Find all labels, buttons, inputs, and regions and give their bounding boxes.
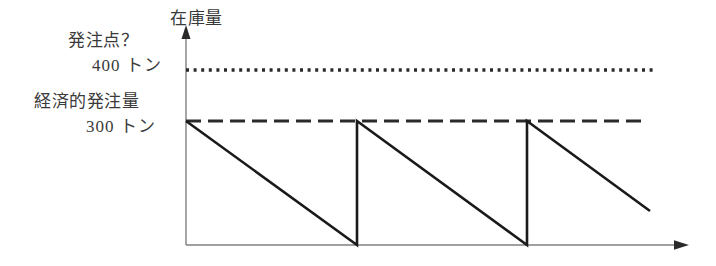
inventory-sawtooth-figure: 発注点？ 400 トン 経済的発注量 300 トン 在庫量 (0, 0, 716, 266)
y-axis-arrow-icon (182, 25, 191, 39)
x-axis-arrow-icon (674, 240, 689, 250)
chart-plot-area (0, 0, 716, 266)
inventory-level-sawtooth-line (186, 121, 650, 245)
